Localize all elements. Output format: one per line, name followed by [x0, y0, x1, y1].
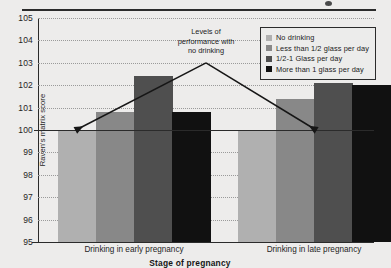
bar-1-3 [352, 85, 391, 242]
chart-legend: No drinkingLess than 1/2 glass per day1/… [260, 27, 376, 80]
legend-label: 1/2-1 Glass per day [276, 54, 342, 63]
y-tick-label: 104 [18, 35, 33, 45]
y-tick-label: 101 [18, 103, 33, 113]
y-tick-label: 105 [18, 13, 33, 23]
annotation-line-3: no drinking [178, 46, 235, 56]
bar-1-2 [314, 83, 353, 242]
legend-swatch-icon [266, 35, 272, 41]
annotation-line-2: performance with [178, 37, 235, 47]
legend-item-0[interactable]: No drinking [266, 33, 369, 42]
y-axis-title: Raven's matrix score [38, 94, 47, 167]
bar-0-0 [58, 130, 97, 242]
legend-item-3[interactable]: More than 1 glass per day [266, 65, 369, 74]
bar-0-3 [172, 112, 211, 242]
legend-swatch-icon [266, 56, 272, 62]
y-tick-label: 96 [23, 215, 33, 225]
legend-label: More than 1 glass per day [276, 65, 364, 74]
y-tick-label: 97 [23, 192, 33, 202]
legend-label: No drinking [276, 33, 314, 42]
bar-1-0 [238, 130, 277, 242]
reference-line-100 [34, 130, 374, 131]
corner-mark-icon [325, 1, 332, 6]
y-tick-label: 99 [23, 147, 33, 157]
annotation-text: Levels of performance with no drinking [178, 27, 235, 56]
y-tick-label: 100 [18, 125, 33, 135]
annotation-line-1: Levels of [178, 27, 235, 37]
y-tick-label: 103 [18, 58, 33, 68]
legend-item-1[interactable]: Less than 1/2 glass per day [266, 44, 369, 53]
bar-0-1 [96, 112, 135, 242]
x-axis-title: Stage of pregnancy [0, 258, 380, 268]
legend-swatch-icon [266, 45, 272, 51]
legend-swatch-icon [266, 66, 272, 72]
legend-item-2[interactable]: 1/2-1 Glass per day [266, 54, 369, 63]
x-axis-line [32, 242, 374, 243]
top-divider-rule [22, 9, 376, 11]
group-label-1: Drinking in late pregnancy [267, 245, 362, 254]
legend-label: Less than 1/2 glass per day [276, 44, 369, 53]
bar-1-1 [276, 99, 315, 242]
bar-0-2 [134, 76, 173, 242]
y-tick-label: 98 [23, 170, 33, 180]
group-label-0: Drinking in early pregnancy [84, 245, 183, 254]
y-tick-label: 102 [18, 80, 33, 90]
